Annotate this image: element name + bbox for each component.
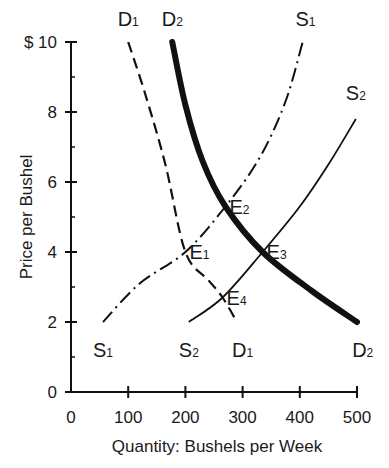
- x-tick-label: 0: [66, 408, 75, 427]
- d1-label-top: D1: [118, 8, 139, 30]
- x-tick-label: 500: [343, 408, 371, 427]
- s1-label-bottom: S1: [93, 339, 113, 361]
- x-tick-label: 400: [286, 408, 314, 427]
- curves: [103, 42, 357, 322]
- s2-label-top: S2: [346, 82, 366, 104]
- s1-label-top: S1: [296, 8, 316, 30]
- y-tick-label: 4: [48, 243, 57, 262]
- x-tick-label: 300: [228, 408, 256, 427]
- y-tick-label: 8: [48, 103, 57, 122]
- x-tick-label: 200: [171, 408, 199, 427]
- y-axis-label: Price per Bushel: [17, 155, 36, 280]
- supply-demand-chart: 02468$ 100100200300400500 D1D1D2D2S1S1S2…: [0, 0, 389, 468]
- e3-label: E3: [267, 241, 287, 263]
- e2-label: E2: [229, 196, 249, 218]
- equilibrium-labels: E1E2E3E4: [189, 196, 287, 309]
- axes: 02468$ 100100200300400500: [24, 33, 371, 427]
- e4-label: E4: [227, 287, 247, 309]
- y-tick-label: 6: [48, 173, 57, 192]
- y-tick-label: 0: [48, 383, 57, 402]
- s1-curve: [103, 42, 303, 322]
- e1-label: E1: [189, 241, 209, 263]
- x-tick-label: 100: [114, 408, 142, 427]
- s2-curve: [189, 119, 356, 322]
- d2-curve: [172, 42, 357, 322]
- d1-label-bottom: D1: [232, 339, 253, 361]
- x-axis-label: Quantity: Bushels per Week: [112, 437, 323, 456]
- y-tick-label: $ 10: [24, 33, 57, 52]
- d2-label-top: D2: [162, 8, 183, 30]
- d2-label-bottom: D2: [352, 339, 373, 361]
- y-tick-label: 2: [48, 313, 57, 332]
- s2-label-bottom: S2: [179, 339, 199, 361]
